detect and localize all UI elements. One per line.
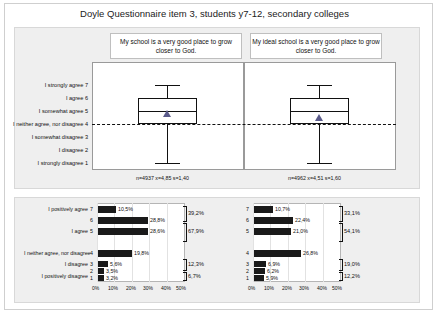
right-bar-5 [254,228,291,235]
scale-text-4: I neither agree, nor disagree [13,121,83,127]
left-barvalue-3: 5,6% [110,261,122,267]
left-bracket-label-39: 39,2% [188,210,204,216]
right-barvalue-3: 6,9% [268,261,280,267]
left-bar-cat-6: 6 [90,217,93,223]
left-bar-cat-2: 2 [90,268,93,274]
scale-text-2: I disagree [59,147,84,153]
right-whisker-vertical [319,85,320,163]
left-mean-marker [163,110,171,117]
left-bracket-6 [183,272,187,281]
right-grid-2 [288,203,289,282]
scale-text-7: I strongly agree [45,82,84,88]
left-bar-cat-1: 1 [90,275,93,281]
left-bar-3 [98,261,108,267]
scale-text-3: I somewhat disagree [32,134,84,140]
scale-text-5: I somewhat agree [39,108,83,114]
left-barvalue-5: 28,6% [150,228,165,234]
right-median-line [290,111,349,112]
right-bar-cat-4: 4 [246,250,249,256]
left-bar-7 [98,206,116,213]
scale-label-3: I somewhat disagree 3 [14,134,88,140]
right-stats-text: n=4962 x=4,51 s=1,60 [288,175,341,181]
left-bracket-label-67: 67,9% [188,228,204,234]
left-bar-label-3: I disagree [44,261,88,267]
right-bar-1 [254,275,264,281]
scale-text-1: I strongly disagree [38,160,84,166]
right-barvalue-6: 22,4% [295,217,310,223]
right-xtick-0: 0% [248,285,255,291]
left-bar-5 [98,228,148,235]
left-barvalue-6: 28,8% [150,217,165,223]
right-bar-4 [254,250,301,257]
right-bracket-12 [339,272,343,281]
right-bar-3 [254,261,266,267]
scale-label-5: I somewhat agree 5 [18,108,88,114]
left-bar-label-4: I neither agree, nor disagree [24,250,88,256]
right-xtick-5: 50% [332,285,342,291]
right-bracket-label-12: 12,2% [344,273,360,279]
right-panel-header: My ideal school is a very good place to … [250,33,382,59]
right-bar-2 [254,268,265,274]
right-mean-marker [315,114,323,121]
right-bar-cat-5: 5 [246,228,249,234]
left-bracket-label-6: 6,7% [188,273,201,279]
right-bar-cat-3: 3 [246,261,249,267]
left-panel-header: My school is a very good place to grow c… [110,33,242,59]
left-xtick-4: 40% [161,285,171,291]
scale-label-6: I agree 6 [18,95,88,101]
left-bar-cat-4: 4 [90,250,93,256]
left-bracket-39 [183,206,187,222]
left-bracket-67 [183,223,187,242]
scale-label-1: I strongly disagree 1 [14,160,88,166]
left-grid-2 [132,203,133,282]
right-grid-4 [323,203,324,282]
left-bar-4 [98,250,132,257]
left-bar-label-1: I positively disagree [30,273,88,279]
left-bar-cat-5: 5 [90,228,93,234]
right-grid-3 [305,203,306,282]
scale-label-7: I strongly agree 7 [18,82,88,88]
left-stats-text: n=4937 x=4,85 s=1,40 [136,175,189,181]
scale-num-2: 2 [85,147,88,153]
left-barvalue-4: 19,8% [134,250,149,256]
left-bar-1 [98,275,104,281]
right-bracket-label-54: 54,1% [344,228,360,234]
right-bracket-19 [339,259,343,271]
left-barvalue-2: 3,5% [106,268,118,274]
right-xtick-4: 40% [317,285,327,291]
page-title: Doyle Questionnaire item 3, students y7-… [0,8,429,19]
left-bracket-label-12: 12,3% [188,261,204,267]
right-bar-7 [254,206,273,213]
right-bar-cat-7: 7 [246,206,249,212]
left-xtick-5: 50% [176,285,186,291]
right-barvalue-7: 10,7% [275,206,290,212]
left-whisker-cap-bottom [155,163,180,164]
left-barvalue-7: 10,5% [118,206,133,212]
right-bracket-33 [339,206,343,222]
scale-label-2: I disagree 2 [18,147,88,153]
right-whisker-cap-bottom [307,163,332,164]
left-whisker-cap-top [155,85,180,86]
left-whisker-vertical [167,85,168,163]
left-xtick-3: 30% [143,285,153,291]
scale-label-4: I neither agree, nor disagree 4 [10,121,88,127]
right-barvalue-1: 5,9% [266,275,278,281]
left-bar-label-6: I agree [36,228,88,234]
left-bracket-12 [183,259,187,271]
right-barvalue-5: 21,0% [293,228,308,234]
left-bar-2 [98,268,104,274]
left-xtick-2: 20% [126,285,136,291]
left-xtick-0: 0% [92,285,99,291]
right-barvalue-4: 26,8% [303,250,318,256]
left-grid-4 [167,203,168,282]
right-xtick-2: 20% [282,285,292,291]
scale-num-6: 6 [85,95,88,101]
scale-num-3: 3 [85,134,88,140]
right-bar-cat-2: 2 [246,268,249,274]
scale-num-7: 7 [85,82,88,88]
left-bar-label-7: I positively agree [36,206,88,212]
scale-num-4: 4 [85,121,88,127]
left-bar-cat-7: 7 [90,206,93,212]
scale-num-5: 5 [85,108,88,114]
right-bar-6 [254,217,293,224]
